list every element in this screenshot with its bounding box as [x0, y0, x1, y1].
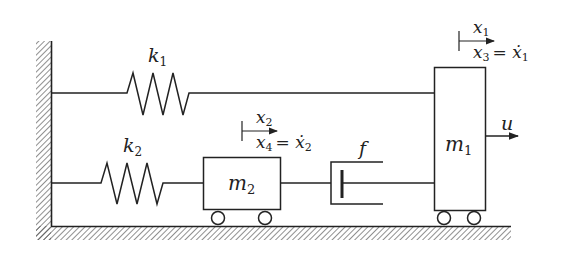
wheel-icon	[438, 212, 451, 225]
label-x4-eq: x4= ẋ2	[256, 132, 312, 154]
wheel-icon	[468, 212, 481, 225]
spring-k2	[51, 163, 203, 204]
ground-floor	[36, 226, 511, 240]
label-x3-eq: x3= ẋ1	[473, 42, 529, 64]
damper-f	[331, 162, 434, 204]
label-x1: x1	[473, 17, 490, 39]
wheel-icon	[212, 212, 225, 225]
mechanical-diagram: k1 k2 m2 f m1 u x1 x3= ẋ1 x2 x4= ẋ2	[0, 0, 574, 263]
fixed-wall	[36, 41, 52, 240]
label-x2: x2	[256, 107, 273, 129]
label-u: u	[501, 112, 513, 134]
wheel-icon	[259, 212, 272, 225]
label-f: f	[357, 137, 369, 159]
label-k2: k2	[123, 134, 142, 159]
label-k1: k1	[148, 44, 167, 69]
spring-k1	[51, 73, 434, 115]
